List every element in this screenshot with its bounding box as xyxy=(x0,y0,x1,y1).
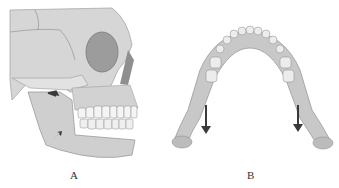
mandible-superior-illustration xyxy=(170,0,339,188)
panel-a-skull-lateral: A xyxy=(0,0,170,188)
panel-label-b: B xyxy=(247,169,254,181)
skull-lateral-illustration xyxy=(0,0,170,188)
panel-label-a: A xyxy=(70,169,78,181)
panel-b-mandible-superior: B xyxy=(170,0,339,188)
